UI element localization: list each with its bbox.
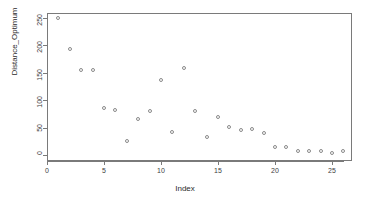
data-point (227, 125, 231, 129)
data-point (341, 149, 345, 153)
y-tick-label: 0 (36, 151, 44, 155)
data-point (296, 149, 300, 153)
y-axis-line (47, 18, 48, 155)
data-point (91, 68, 95, 72)
x-tick-label: 10 (157, 167, 165, 175)
data-point (148, 109, 152, 113)
y-tick-label: 200 (36, 41, 44, 53)
data-point (239, 128, 243, 132)
data-point (284, 145, 288, 149)
data-point (79, 68, 83, 72)
data-point (56, 16, 60, 20)
data-point (273, 145, 277, 149)
x-axis-title: Index (0, 184, 370, 193)
y-tick-label: 50 (36, 124, 44, 132)
data-point (102, 106, 106, 110)
data-point (113, 108, 117, 112)
data-point (170, 130, 174, 134)
x-tick-mark (332, 161, 333, 165)
x-tick-mark (47, 161, 48, 165)
data-point (262, 131, 266, 135)
data-point (205, 135, 209, 139)
data-point (330, 151, 334, 155)
x-tick-label: 5 (102, 167, 106, 175)
data-points-layer (47, 13, 352, 161)
x-tick-mark (218, 161, 219, 165)
y-tick-label: 250 (36, 14, 44, 26)
data-point (136, 117, 140, 121)
x-tick-label: 0 (45, 167, 49, 175)
data-point (182, 66, 186, 70)
data-point (159, 78, 163, 82)
data-point (307, 149, 311, 153)
data-point (250, 127, 254, 131)
x-tick-label: 15 (214, 167, 222, 175)
x-tick-mark (275, 161, 276, 165)
data-point (216, 115, 220, 119)
data-point (193, 109, 197, 113)
x-tick-label: 20 (271, 167, 279, 175)
y-tick-label: 150 (36, 69, 44, 81)
x-tick-label: 25 (328, 167, 336, 175)
scatter-plot: 050100150200250 0510152025 Index Distanc… (0, 0, 370, 207)
y-tick-mark (43, 155, 47, 156)
data-point (68, 47, 72, 51)
data-point (319, 149, 323, 153)
y-axis-title: Distance_Optimum (10, 0, 19, 102)
data-point (125, 139, 129, 143)
x-axis-line (47, 161, 344, 162)
x-tick-mark (161, 161, 162, 165)
y-tick-label: 100 (36, 96, 44, 108)
x-tick-mark (104, 161, 105, 165)
